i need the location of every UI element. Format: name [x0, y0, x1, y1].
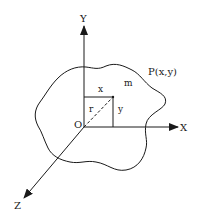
- mass-label: m: [124, 78, 133, 88]
- body-outline: [35, 64, 165, 170]
- point-label: P(x,y): [148, 66, 177, 77]
- point-p: [112, 96, 114, 98]
- z-axis-label: Z: [14, 200, 21, 211]
- origin-label: O: [74, 119, 82, 130]
- mass-moment-diagram: Y X Z O P(x,y) m x r y: [0, 0, 199, 214]
- y-axis-label: Y: [79, 13, 87, 24]
- y-component-label: y: [117, 104, 124, 114]
- r-label: r: [89, 104, 94, 114]
- diagram-canvas: Y X Z O P(x,y) m x r y: [0, 0, 199, 214]
- x-axis-label: X: [180, 122, 188, 133]
- x-component-label: x: [98, 84, 103, 94]
